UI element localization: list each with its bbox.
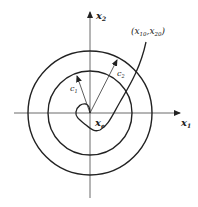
origin-label: xe bbox=[94, 117, 105, 129]
radius-c1-arrow bbox=[77, 76, 90, 113]
phase-plane-diagram: x2 x1 xe (x10,x20) c1 c2 bbox=[0, 0, 198, 207]
initial-point-label: (x10,x20) bbox=[131, 26, 166, 37]
radius-c2-arrow bbox=[90, 60, 117, 113]
x1-axis-label: x1 bbox=[180, 117, 191, 129]
c2-label: c2 bbox=[117, 69, 125, 79]
c1-label: c1 bbox=[70, 84, 78, 94]
x2-axis-label: x2 bbox=[95, 10, 106, 22]
